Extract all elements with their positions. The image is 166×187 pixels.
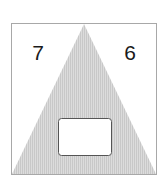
left-number: 7 (32, 41, 44, 64)
number-triangle-puzzle: 7 6 (0, 0, 166, 187)
right-number: 6 (124, 41, 136, 64)
answer-box[interactable] (59, 119, 112, 156)
